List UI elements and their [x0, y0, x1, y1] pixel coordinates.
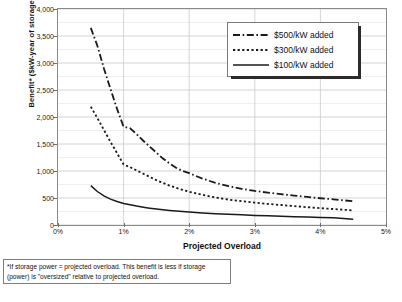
x-tick-mark	[255, 223, 256, 227]
y-tick-label: 2,500	[36, 87, 54, 94]
y-tick-label: 3,000	[36, 60, 54, 67]
y-tick-label: 2,000	[36, 114, 54, 121]
legend-line-swatch-icon	[232, 45, 270, 55]
y-tick-label: 1,500	[36, 141, 54, 148]
x-axis-tick-labels: 0%1%2%3%4%5%	[57, 228, 387, 240]
x-tick-mark	[386, 223, 387, 227]
x-tick-label: 0%	[53, 228, 63, 235]
legend-item-label: $300/kW added	[274, 45, 334, 55]
x-tick-mark	[58, 223, 59, 227]
y-tick-label: 1,000	[36, 168, 54, 175]
chart-legend: $500/kW added$300/kW added$100/kW added	[227, 22, 359, 77]
y-axis-tick-labels: 05001,0001,5002,0002,5003,0003,5004,000	[0, 8, 54, 226]
legend-item[interactable]: $300/kW added	[232, 42, 353, 57]
x-tick-label: 2%	[184, 228, 194, 235]
legend-item-label: $100/kW added	[274, 60, 334, 70]
y-tick-label: 3,500	[36, 33, 54, 40]
x-tick-mark	[320, 223, 321, 227]
x-tick-label: 3%	[250, 228, 260, 235]
x-tick-label: 4%	[315, 228, 325, 235]
x-axis-title: Projected Overload	[57, 241, 387, 251]
chart-footnote: *If storage power = projected overload. …	[3, 259, 231, 284]
x-tick-mark	[189, 223, 190, 227]
x-tick-label: 5%	[381, 228, 391, 235]
legend-line-swatch-icon	[232, 30, 270, 40]
legend-item-label: $500/kW added	[274, 30, 334, 40]
x-tick-mark	[124, 223, 125, 227]
legend-line-swatch-icon	[232, 60, 270, 70]
x-tick-label: 1%	[119, 228, 129, 235]
legend-item[interactable]: $100/kW added	[232, 57, 353, 72]
y-tick-label: 4,000	[36, 6, 54, 13]
chart-figure: Benefit* ($kW-year of storage) 05001,000…	[0, 0, 402, 302]
legend-item[interactable]: $500/kW added	[232, 27, 353, 42]
